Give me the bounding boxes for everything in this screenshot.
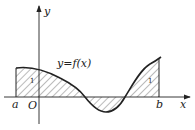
bound-label-a: a	[12, 98, 19, 111]
y-axis-label: y	[43, 5, 51, 18]
shaded-region-right	[125, 59, 159, 97]
bound-label-b: b	[156, 98, 163, 111]
origin-label: O	[28, 99, 37, 112]
curve-label: y=f(x)	[56, 57, 91, 70]
region-mark-left: 1	[30, 77, 34, 85]
shaded-region-left	[16, 67, 85, 97]
x-axis-label: x	[180, 98, 187, 111]
integral-diagram: y x O a b y=f(x) 1 1	[0, 0, 195, 130]
region-mark-right: 1	[148, 77, 152, 85]
